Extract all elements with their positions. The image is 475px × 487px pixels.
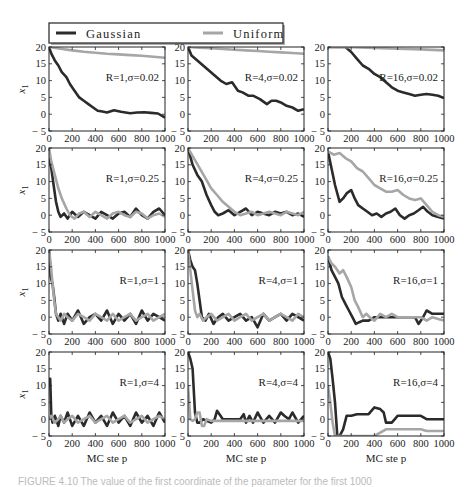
x-tick-label: 400 [367,234,383,245]
x-tick-label: 400 [88,133,104,144]
x-tick-label: 0 [185,133,190,144]
y-tick-label: − 5 [171,126,185,137]
y-tick-label: 15 [175,363,186,374]
y-tick-label: 0 [180,414,185,425]
y-tick-label: 20 [315,42,326,53]
x-tick-label: 800 [134,133,150,144]
x-tick-label: 1000 [434,438,455,449]
x-axis-label: MC ste p [366,452,407,464]
y-tick-label: 20 [36,143,47,154]
y-tick-label: 10 [175,380,186,391]
x-tick-label: 800 [413,133,429,144]
x-tick-label: 800 [134,234,150,245]
x-tick-label: 0 [325,234,330,245]
panel-8: 02004006008001000− 505101520R=4,σ=1 [171,245,314,348]
y-tick-label: 0 [180,312,185,323]
x-tick-label: 200 [343,133,359,144]
y-tick-label: 20 [175,42,186,53]
y-tick-label: 15 [36,58,47,69]
y-tick-label: 20 [315,143,326,154]
x-tick-label: 400 [88,336,104,347]
y-axis-label: x1 [15,390,30,400]
x-tick-label: 600 [111,336,127,347]
panel-annotation: R=16,σ=0.25 [379,172,438,184]
x-tick-label: 0 [185,336,190,347]
x-tick-label: 200 [203,336,219,347]
y-tick-label: 20 [175,347,186,358]
panel-annotation: R=1,σ=1 [120,274,159,286]
y-tick-label: − 5 [32,431,46,442]
y-tick-label: 15 [36,261,47,272]
x-tick-label: 800 [273,336,289,347]
figure-caption: FIGURE 4.10 The value of the first coord… [18,476,372,487]
y-tick-label: 20 [36,245,47,256]
y-tick-label: 5 [320,92,325,103]
y-tick-label: 10 [315,278,326,289]
x-tick-label: 400 [227,133,243,144]
y-tick-label: 0 [41,414,46,425]
plot-area [188,47,304,131]
y-tick-label: 0 [41,210,46,221]
panel-6: 02004006008001000− 505101520R=16,σ=0.25 [311,143,454,246]
x-tick-label: 200 [64,438,80,449]
y-tick-label: 20 [315,245,326,256]
plot-area [328,148,444,232]
x-tick-label: 800 [134,438,150,449]
x-tick-label: 400 [367,133,383,144]
x-tick-label: 800 [273,133,289,144]
y-tick-label: 15 [315,363,326,374]
x-tick-label: 200 [343,438,359,449]
x-tick-label: 600 [111,438,127,449]
panel-annotation: R=1,σ=0.25 [106,172,160,184]
y-tick-label: 5 [41,295,46,306]
x-tick-label: 400 [367,438,383,449]
y-tick-label: 0 [320,109,325,120]
panel-annotation: R=4,σ=0.02 [245,71,298,83]
y-tick-label: − 5 [32,227,46,238]
x-tick-label: 0 [325,336,330,347]
x-tick-label: 200 [64,234,80,245]
panel-annotation: R=4,σ=1 [259,274,298,286]
y-tick-label: 10 [36,278,47,289]
x-tick-label: 600 [250,234,266,245]
y-tick-label: 10 [175,75,186,86]
x-tick-label: 0 [46,234,51,245]
y-tick-label: 15 [36,363,47,374]
x-tick-label: 600 [111,234,127,245]
x-tick-label: 600 [250,133,266,144]
x-tick-label: 800 [134,336,150,347]
x-tick-label: 1000 [434,336,455,347]
y-tick-label: − 5 [171,431,185,442]
y-tick-label: 15 [315,58,326,69]
legend-label-uniform: Uniform [233,27,284,41]
y-tick-label: 0 [180,109,185,120]
panel-2: 02004006008001000− 505101520R=4,σ=0.02 [171,42,314,145]
y-tick-label: 0 [41,312,46,323]
x-tick-label: 800 [273,438,289,449]
x-tick-label: 800 [413,438,429,449]
y-axis-label: x1 [15,288,30,298]
y-tick-label: 20 [175,143,186,154]
y-tick-label: − 5 [32,329,46,340]
y-tick-label: 10 [175,176,186,187]
x-tick-label: 400 [227,336,243,347]
y-tick-label: − 5 [171,329,185,340]
x-tick-label: 1000 [434,234,455,245]
x-tick-label: 400 [367,336,383,347]
x-tick-label: 400 [227,438,243,449]
panel-12: 02004006008001000− 505101520R=16,σ=4MC s… [311,347,454,465]
x-tick-label: 0 [325,133,330,144]
y-tick-label: 20 [36,347,47,358]
y-tick-label: 0 [41,109,46,120]
y-tick-label: 10 [315,380,326,391]
y-tick-label: − 5 [311,329,325,340]
y-tick-label: 20 [315,347,326,358]
y-tick-label: 15 [175,58,186,69]
y-tick-label: 10 [36,176,47,187]
y-axis-label: x1 [15,85,30,95]
panel-annotation: R=4,σ=4 [259,376,299,388]
panel-annotation: R=1,σ=4 [120,376,160,388]
x-tick-label: 1000 [434,133,455,144]
y-tick-label: 10 [36,75,47,86]
